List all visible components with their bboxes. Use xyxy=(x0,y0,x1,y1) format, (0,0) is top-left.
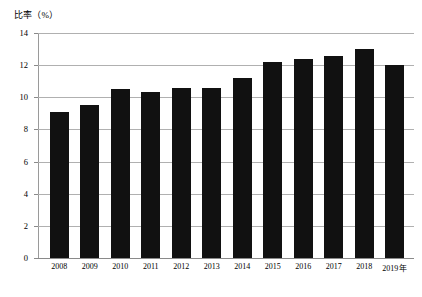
x-tick-label-2011: 2011 xyxy=(136,262,167,273)
bar-2008[interactable] xyxy=(50,112,69,258)
bar-2019[interactable] xyxy=(385,65,404,258)
x-tick-label-2009: 2009 xyxy=(75,262,106,273)
bar-slot-2012 xyxy=(166,33,197,258)
x-tick-label-2016: 2016 xyxy=(288,262,319,273)
bar-slot-2017 xyxy=(319,33,350,258)
bar-2010[interactable] xyxy=(111,89,130,258)
x-tick-label-2015: 2015 xyxy=(258,262,289,273)
y-tick-label-10: 10 xyxy=(0,92,28,102)
y-tick-label-0: 0 xyxy=(0,253,28,263)
bar-slot-2013 xyxy=(197,33,228,258)
y-tick-label-2: 2 xyxy=(0,221,28,231)
bar-2013[interactable] xyxy=(202,88,221,258)
x-tick-label-2012: 2012 xyxy=(166,262,197,273)
bar-slot-2008 xyxy=(44,33,75,258)
bars-group xyxy=(38,33,414,258)
bar-slot-2014 xyxy=(227,33,258,258)
bar-slot-2016 xyxy=(288,33,319,258)
bar-slot-2010 xyxy=(105,33,136,258)
bar-2012[interactable] xyxy=(172,88,191,258)
bar-2014[interactable] xyxy=(233,78,252,258)
bar-slot-2011 xyxy=(136,33,167,258)
bar-2018[interactable] xyxy=(355,49,374,258)
plot-area: 02468101214 xyxy=(38,33,414,258)
x-tick-label-2017: 2017 xyxy=(319,262,350,273)
y-tick-label-14: 14 xyxy=(0,28,28,38)
bar-2016[interactable] xyxy=(294,59,313,258)
x-tick-label-2013: 2013 xyxy=(197,262,228,273)
bar-2015[interactable] xyxy=(263,62,282,258)
x-axis-unit-label: 年 xyxy=(399,264,407,273)
bar-2017[interactable] xyxy=(324,56,343,259)
x-tick-label-2008: 2008 xyxy=(44,262,75,273)
x-tick-label-2014: 2014 xyxy=(227,262,258,273)
bar-slot-2019 xyxy=(380,33,411,258)
x-tick-label-2019: 2019年 xyxy=(380,262,411,273)
y-tick-label-4: 4 xyxy=(0,189,28,199)
y-tick-label-8: 8 xyxy=(0,124,28,134)
bar-chart: 比率（%） 02468101214 2008200920102011201220… xyxy=(0,0,422,297)
bar-slot-2018 xyxy=(349,33,380,258)
y-tick-label-12: 12 xyxy=(0,60,28,70)
gridline-0 xyxy=(38,258,414,259)
bar-2009[interactable] xyxy=(80,105,99,258)
x-tick-label-2018: 2018 xyxy=(349,262,380,273)
y-tick-mark-0 xyxy=(34,258,38,259)
bar-2011[interactable] xyxy=(141,92,160,258)
x-tick-label-2010: 2010 xyxy=(105,262,136,273)
bar-slot-2009 xyxy=(75,33,106,258)
y-axis-caption: 比率（%） xyxy=(14,8,59,21)
x-tick-labels-group: 2008200920102011201220132014201520162017… xyxy=(38,262,414,273)
y-tick-label-6: 6 xyxy=(0,157,28,167)
bar-slot-2015 xyxy=(258,33,289,258)
